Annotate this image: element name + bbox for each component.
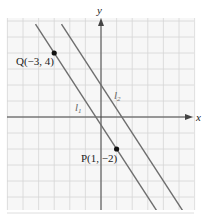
point-p (114, 146, 119, 151)
x-axis-label: x (195, 111, 201, 123)
point-q-label: Q(−3, 4) (16, 55, 54, 68)
y-axis-label: y (96, 4, 102, 16)
point-p-label: P(1, −2) (81, 152, 117, 165)
coordinate-plane: x y l1 l2 Q(−3, 4) P(1, −2) (0, 0, 205, 220)
